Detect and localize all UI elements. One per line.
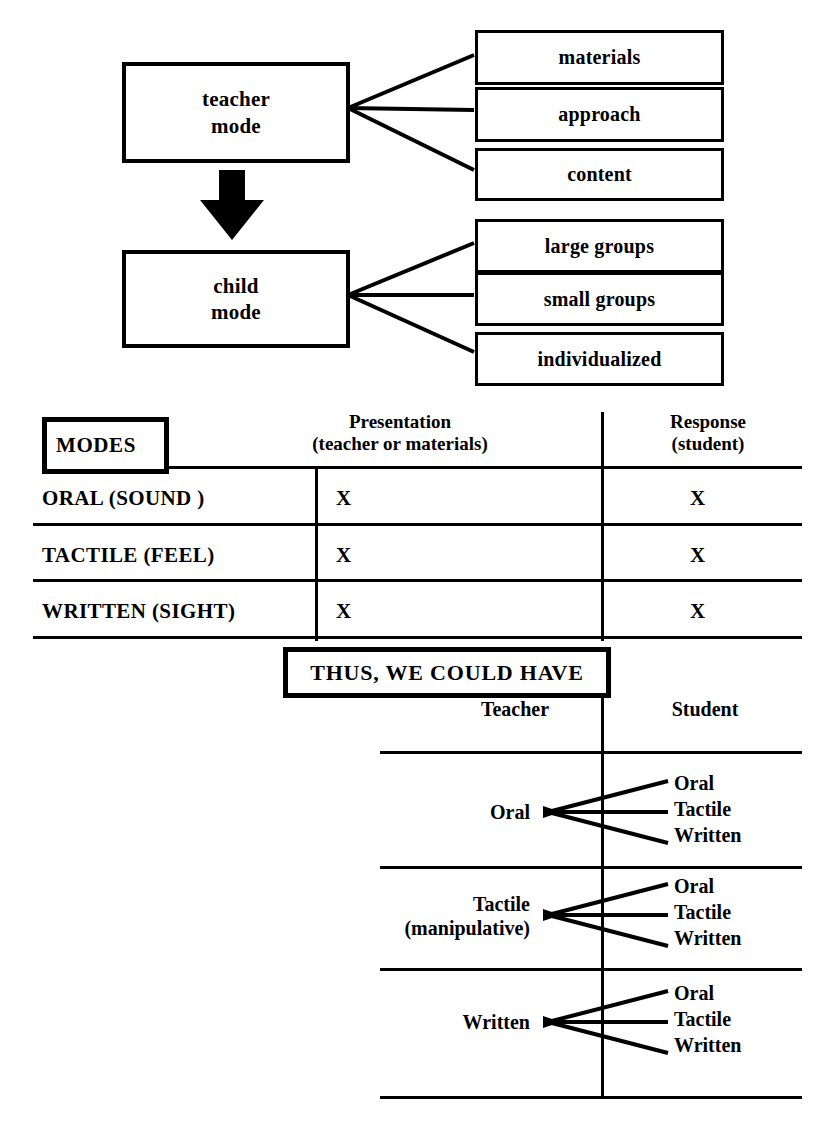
teacher-mode-label-1: teacher [202, 87, 270, 111]
thus-divider [601, 690, 604, 1099]
modes-header-presentation-title: Presentation [349, 411, 451, 432]
thus-rule-1 [380, 866, 802, 869]
modes-divider-right [601, 412, 604, 641]
thus-banner-label: THUS, WE COULD HAVE [310, 660, 584, 686]
teacher-mode-label-2: mode [202, 113, 270, 139]
thus-rule-header [380, 751, 802, 754]
thus-banner: THUS, WE COULD HAVE [283, 647, 611, 698]
modes-cell-oral-response: X [690, 486, 705, 511]
child-mode-label-2: mode [211, 299, 261, 325]
modes-cell-tactile-response: X [690, 543, 705, 568]
thus-row-1-student: Oral Tactile Written [674, 770, 741, 848]
down-arrow-icon [200, 170, 264, 240]
modes-cell-tactile-presentation-text: X [336, 543, 351, 567]
modes-cell-tactile-response-text: X [690, 543, 705, 567]
modes-row-label-oral-text: ORAL (SOUND ) [42, 486, 205, 510]
modes-header-presentation: Presentation (teacher or materials) [250, 411, 550, 456]
modes-cell-tactile-presentation: X [336, 543, 351, 568]
modes-rule-2 [33, 579, 802, 582]
modes-cell-written-presentation: X [336, 599, 351, 624]
thus-header-teacher-text: Teacher [481, 698, 549, 720]
modes-cell-oral-presentation: X [336, 486, 351, 511]
thus-row-2-student-oral: Oral [674, 873, 741, 899]
modes-cell-written-response-text: X [690, 599, 705, 623]
thus-row-3-student-tactile: Tactile [674, 1006, 741, 1032]
thus-row-3-student-written: Written [674, 1032, 741, 1058]
thus-row-3-student: Oral Tactile Written [674, 980, 741, 1058]
child-branch-large-groups: large groups [475, 219, 724, 273]
modes-row-label-oral: ORAL (SOUND ) [42, 486, 205, 511]
thus-row-2-teacher: Tactile (manipulative) [380, 892, 530, 941]
thus-row-1-student-written: Written [674, 822, 741, 848]
child-branch-large-groups-label: large groups [545, 235, 654, 258]
thus-row-3-teacher: Written [390, 1010, 530, 1034]
modes-divider-left [315, 466, 318, 641]
child-mode-box: child mode [122, 250, 350, 348]
thus-row-3-teacher-line1: Written [463, 1011, 530, 1033]
child-branch-individualized-label: individualized [538, 348, 662, 371]
modes-row-label-tactile: TACTILE (FEEL) [42, 543, 215, 568]
thus-row-1-teacher-line1: Oral [490, 801, 530, 823]
teacher-branch-content-label: content [567, 163, 632, 186]
modes-rule-1 [33, 523, 802, 526]
thus-branch-row-3 [543, 991, 668, 1053]
diagram-canvas: teacher mode materials approach content … [0, 0, 827, 1134]
modes-header-presentation-sub: (teacher or materials) [312, 433, 488, 454]
thus-header-student: Student [620, 698, 790, 721]
child-branch-individualized: individualized [475, 332, 724, 386]
modes-row-label-written: WRITTEN (SIGHT) [42, 599, 235, 624]
thus-row-2-student: Oral Tactile Written [674, 873, 741, 951]
thus-header-student-text: Student [672, 698, 739, 720]
thus-row-1-teacher: Oral [400, 800, 530, 824]
teacher-mode-box: teacher mode [122, 62, 350, 163]
modes-cell-oral-presentation-text: X [336, 486, 351, 510]
thus-row-2-student-tactile: Tactile [674, 899, 741, 925]
modes-badge: MODES [42, 417, 169, 474]
thus-row-2-teacher-line2: (manipulative) [380, 916, 530, 940]
thus-row-2-teacher-line1: Tactile [380, 892, 530, 916]
thus-row-1-student-tactile: Tactile [674, 796, 741, 822]
teacher-branch-approach: approach [475, 87, 724, 142]
modes-badge-label: MODES [56, 433, 136, 458]
modes-cell-written-presentation-text: X [336, 599, 351, 623]
teacher-branch-approach-label: approach [558, 103, 640, 126]
thus-rule-3 [380, 1096, 802, 1099]
teacher-branch-content: content [475, 148, 724, 201]
modes-rule-3 [33, 636, 802, 639]
modes-row-label-written-text: WRITTEN (SIGHT) [42, 599, 235, 623]
modes-header-response-sub: (student) [672, 433, 745, 454]
thus-branch-row-2 [543, 884, 668, 946]
modes-header-response-title: Response [670, 411, 746, 432]
child-branch-small-groups: small groups [475, 272, 724, 326]
teacher-branch-materials: materials [475, 30, 724, 85]
thus-row-2-student-written: Written [674, 925, 741, 951]
teacher-branch-materials-label: materials [559, 46, 641, 69]
child-branch-small-groups-label: small groups [544, 288, 656, 311]
thus-rule-2 [380, 968, 802, 971]
modes-cell-oral-response-text: X [690, 486, 705, 510]
thus-row-1-student-oral: Oral [674, 770, 741, 796]
modes-header-response: Response (student) [608, 411, 808, 456]
thus-row-3-student-oral: Oral [674, 980, 741, 1006]
thus-header-teacher: Teacher [430, 698, 600, 721]
thus-branch-row-1 [543, 781, 668, 843]
modes-cell-written-response: X [690, 599, 705, 624]
modes-row-label-tactile-text: TACTILE (FEEL) [42, 543, 215, 567]
child-mode-label-1: child [213, 274, 258, 298]
